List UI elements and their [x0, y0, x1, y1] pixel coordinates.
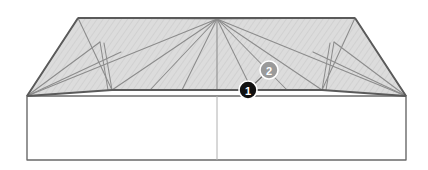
building-walls: [27, 96, 406, 160]
callout-2-label: 2: [266, 65, 272, 77]
callout-1-label: 1: [245, 85, 251, 97]
callout-badge-1[interactable]: 1: [239, 81, 257, 99]
roof-diagram: 2 1: [0, 0, 428, 170]
callout-badge-2[interactable]: 2: [260, 61, 278, 79]
roof-diagram-svg: 2 1: [0, 0, 428, 170]
